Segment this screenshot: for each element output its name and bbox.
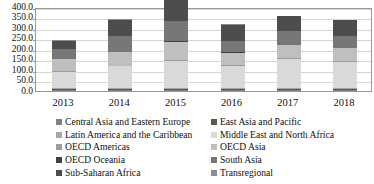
bar-segment[interactable] [221, 66, 245, 89]
y-tick-label: 50.0 [16, 76, 33, 86]
legend-swatch-icon [211, 157, 217, 163]
x-tick-label: 2017 [260, 96, 316, 110]
bar-segment[interactable] [277, 90, 301, 91]
legend-swatch-icon [211, 119, 217, 125]
bar-segment[interactable] [221, 41, 245, 52]
y-tick-label: 0.0 [21, 87, 33, 97]
legend-swatch-icon [56, 144, 62, 150]
bar-segment[interactable] [108, 52, 132, 66]
legend-item[interactable]: Middle East and North Africa [211, 129, 366, 142]
bars-layer [36, 9, 371, 91]
legend-swatch-icon [211, 132, 217, 138]
bar-column[interactable] [108, 19, 132, 90]
bar-segment[interactable] [52, 59, 76, 71]
bar-segment[interactable] [277, 45, 301, 58]
plot-area [35, 8, 372, 92]
bar-segment[interactable] [333, 36, 357, 48]
bar-segment[interactable] [333, 48, 357, 61]
legend-label: Central Asia and Eastern Europe [65, 116, 190, 128]
bar-segment[interactable] [333, 20, 357, 35]
legend-item[interactable]: OECD Asia [211, 141, 366, 154]
legend-label: South Asia [220, 154, 262, 166]
bar-segment[interactable] [52, 49, 76, 59]
stacked-bar-chart: 400.0350.0300.0250.0200.0150.0100.050.00… [0, 0, 374, 184]
legend-label: Middle East and North Africa [220, 129, 334, 141]
legend-item[interactable]: Latin America and the Caribbean [56, 129, 211, 142]
legend-label: Latin America and the Caribbean [65, 129, 192, 141]
y-tick-label: 200.0 [12, 45, 33, 55]
y-axis: 400.0350.0300.0250.0200.0150.0100.050.00… [0, 0, 33, 96]
legend-label: OECD Asia [220, 141, 266, 153]
legend-item[interactable]: Central Asia and Eastern Europe [56, 116, 211, 129]
legend-swatch-icon [56, 119, 62, 125]
y-tick-label: 350.0 [12, 13, 33, 23]
y-tick-label: 300.0 [12, 24, 33, 34]
bar-segment[interactable] [108, 36, 132, 51]
bar-segment[interactable] [108, 90, 132, 91]
bar-segment[interactable] [333, 90, 357, 91]
legend-label: OECD Oceania [65, 154, 125, 166]
legend-item[interactable]: OECD Americas [56, 141, 211, 154]
bar-segment[interactable] [52, 41, 76, 49]
bar-segment[interactable] [52, 90, 76, 91]
legend-item[interactable]: Transregional [211, 166, 366, 179]
bar-column[interactable] [164, 0, 188, 91]
legend-label: East Asia and Pacific [220, 116, 301, 128]
legend-swatch-icon [211, 144, 217, 150]
plot-wrapper: 400.0350.0300.0250.0200.0150.0100.050.00… [0, 0, 374, 96]
bar-segment[interactable] [333, 62, 357, 88]
bar-segment[interactable] [108, 20, 132, 37]
bar-segment[interactable] [164, 61, 188, 88]
y-tick-label: 100.0 [12, 66, 33, 76]
x-axis: 201320142015201620172018 [35, 96, 372, 114]
legend-item[interactable]: East Asia and Pacific [211, 116, 366, 129]
bar-segment[interactable] [164, 21, 188, 41]
legend-item[interactable]: OECD Oceania [56, 154, 211, 167]
bar-segment[interactable] [221, 90, 245, 91]
bar-segment[interactable] [164, 0, 188, 21]
bar-segment[interactable] [221, 53, 245, 65]
legend-label: Sub-Saharan Africa [65, 167, 140, 179]
legend-swatch-icon [56, 132, 62, 138]
chart-legend: Central Asia and Eastern EuropeEast Asia… [56, 116, 366, 180]
x-tick-label: 2015 [147, 96, 203, 110]
bar-column[interactable] [333, 20, 357, 91]
bar-segment[interactable] [108, 66, 132, 88]
bar-column[interactable] [52, 40, 76, 90]
bar-segment[interactable] [277, 16, 301, 31]
bar-segment[interactable] [164, 42, 188, 60]
legend-swatch-icon [211, 170, 217, 176]
bar-column[interactable] [277, 16, 301, 91]
y-tick-label: 400.0 [12, 3, 33, 13]
y-tick-label: 150.0 [12, 55, 33, 65]
bar-segment[interactable] [277, 31, 301, 45]
bar-segment[interactable] [164, 90, 188, 91]
x-tick-label: 2014 [91, 96, 147, 110]
legend-item[interactable]: South Asia [211, 154, 366, 167]
legend-item[interactable]: Sub-Saharan Africa [56, 166, 211, 179]
x-tick-label: 2018 [316, 96, 372, 110]
bar-segment[interactable] [52, 72, 76, 88]
legend-label: OECD Americas [65, 141, 130, 153]
bar-segment[interactable] [277, 59, 301, 88]
bar-segment[interactable] [221, 25, 245, 42]
legend-label: Transregional [220, 167, 273, 179]
bar-column[interactable] [221, 24, 245, 90]
x-tick-label: 2013 [35, 96, 91, 110]
legend-swatch-icon [56, 170, 62, 176]
y-tick-label: 250.0 [12, 34, 33, 44]
x-tick-label: 2016 [204, 96, 260, 110]
legend-swatch-icon [56, 157, 62, 163]
